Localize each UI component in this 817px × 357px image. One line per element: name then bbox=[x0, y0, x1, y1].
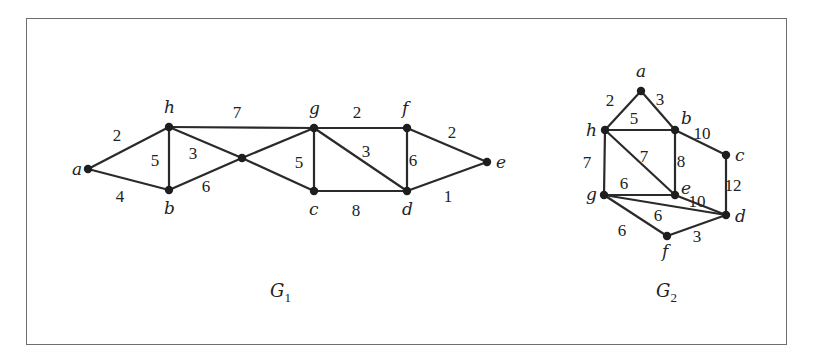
edge-weight: 3 bbox=[656, 90, 665, 109]
graph-G1: 2457365238621ahbgcfdeG1 bbox=[72, 97, 506, 305]
node-label: d bbox=[402, 199, 413, 219]
edge-weight: 6 bbox=[620, 174, 629, 193]
node-b bbox=[671, 126, 679, 134]
node-label: f bbox=[660, 241, 671, 261]
node-label: b bbox=[681, 108, 692, 128]
edge-weight: 3 bbox=[362, 142, 371, 161]
node-label: d bbox=[735, 206, 746, 226]
node-label: a bbox=[636, 61, 646, 81]
node-g bbox=[600, 191, 608, 199]
node-c bbox=[310, 187, 318, 195]
node-label: h bbox=[586, 120, 597, 140]
node-label: a bbox=[72, 159, 82, 179]
node-label: g bbox=[309, 98, 320, 118]
node-a bbox=[84, 165, 92, 173]
node-label: h bbox=[164, 97, 175, 117]
node-h bbox=[165, 123, 173, 131]
edge-weight: 7 bbox=[583, 153, 592, 172]
edge-a-b bbox=[88, 169, 169, 190]
edge-weight: 6 bbox=[618, 221, 627, 240]
node-h bbox=[601, 126, 609, 134]
edge-g-d bbox=[604, 195, 726, 215]
edge-h-g bbox=[604, 130, 605, 195]
node-d bbox=[722, 211, 730, 219]
node-d bbox=[403, 187, 411, 195]
node-c bbox=[722, 151, 730, 159]
edge-weight: 2 bbox=[448, 123, 457, 142]
edge-weight: 8 bbox=[677, 152, 686, 171]
node-label: b bbox=[164, 198, 175, 218]
node-label: e bbox=[681, 178, 691, 198]
edge-weight: 1 bbox=[444, 187, 453, 206]
edge-weight: 5 bbox=[151, 151, 160, 170]
edge-weight: 5 bbox=[630, 109, 639, 128]
edge-weight: 8 bbox=[352, 201, 361, 220]
edge-weight: 2 bbox=[606, 91, 615, 110]
graph-canvas: 2457365238621ahbgcfdeG12351077812610663a… bbox=[0, 0, 817, 357]
graph-caption: G1 bbox=[270, 280, 291, 305]
edge-g-d bbox=[314, 128, 407, 191]
node-g bbox=[310, 124, 318, 132]
edge-h-g bbox=[169, 127, 314, 128]
node-b bbox=[165, 186, 173, 194]
edge-weight: 6 bbox=[202, 177, 211, 196]
edge-weight: 2 bbox=[353, 103, 362, 122]
graph-G2: 2351077812610663ahbcgedfG2 bbox=[583, 61, 746, 305]
node-label: c bbox=[735, 145, 745, 165]
edge-weight: 3 bbox=[189, 144, 198, 163]
node-label: c bbox=[309, 199, 319, 219]
node-e bbox=[671, 191, 679, 199]
node-label: e bbox=[496, 152, 506, 172]
edge-h-x bbox=[169, 127, 242, 158]
edge-weight: 4 bbox=[116, 187, 125, 206]
edge-weight: 5 bbox=[295, 153, 304, 172]
node-e bbox=[483, 158, 491, 166]
edge-weight: 7 bbox=[233, 103, 242, 122]
edge-weight: 12 bbox=[725, 176, 742, 195]
node-label: g bbox=[586, 184, 597, 204]
graph-caption: G2 bbox=[656, 280, 677, 305]
edge-weight: 10 bbox=[694, 124, 711, 143]
node-junction bbox=[238, 154, 246, 162]
node-label: f bbox=[400, 98, 411, 118]
node-f bbox=[403, 124, 411, 132]
edge-weight: 2 bbox=[113, 126, 122, 145]
edge-weight: 6 bbox=[654, 206, 663, 225]
edge-weight: 3 bbox=[693, 227, 702, 246]
edge-weight: 7 bbox=[640, 147, 649, 166]
edge-weight: 6 bbox=[409, 151, 418, 170]
node-f bbox=[663, 232, 671, 240]
node-a bbox=[637, 87, 645, 95]
